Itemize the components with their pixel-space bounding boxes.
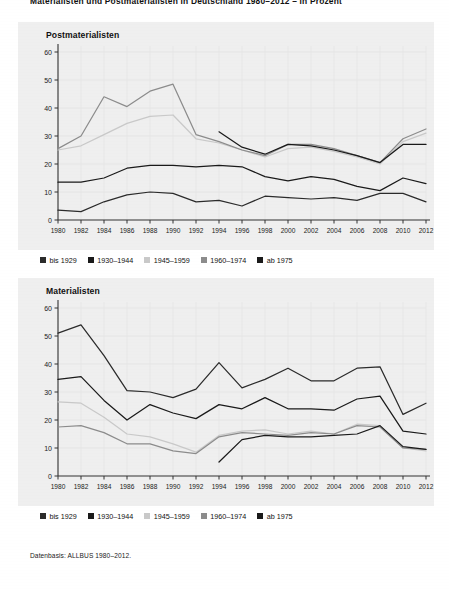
svg-text:1994: 1994 xyxy=(212,227,227,234)
svg-text:50: 50 xyxy=(44,77,52,84)
svg-text:1988: 1988 xyxy=(143,483,158,490)
svg-text:2004: 2004 xyxy=(327,483,342,490)
legend-item-2: 1945–1959 xyxy=(144,256,189,265)
legend-item-1: 1930–1944 xyxy=(88,512,133,521)
legend-item-3: 1960–1974 xyxy=(201,256,246,265)
legend-swatch-icon xyxy=(257,513,263,519)
svg-text:2006: 2006 xyxy=(350,227,365,234)
legend-item-4: ab 1975 xyxy=(257,512,292,521)
svg-text:1982: 1982 xyxy=(74,227,89,234)
chart-panel-postmaterialisten: Postmaterialisten 0102030405060198019821… xyxy=(18,22,434,250)
svg-text:2006: 2006 xyxy=(350,483,365,490)
legend-label: 1930–1944 xyxy=(97,256,133,265)
svg-text:0: 0 xyxy=(48,473,52,480)
legend-swatch-icon xyxy=(88,513,94,519)
svg-text:20: 20 xyxy=(44,417,52,424)
legend-item-2: 1945–1959 xyxy=(144,512,189,521)
svg-text:1986: 1986 xyxy=(120,227,135,234)
svg-text:2010: 2010 xyxy=(396,483,411,490)
svg-text:2008: 2008 xyxy=(373,227,388,234)
legend-swatch-icon xyxy=(40,257,46,263)
legend-swatch-icon xyxy=(257,257,263,263)
svg-text:1990: 1990 xyxy=(166,227,181,234)
legend-label: bis 1929 xyxy=(50,512,77,521)
svg-text:2012: 2012 xyxy=(419,227,434,234)
svg-text:1984: 1984 xyxy=(97,227,112,234)
svg-text:2010: 2010 xyxy=(396,227,411,234)
legend-swatch-icon xyxy=(144,257,150,263)
legend-label: ab 1975 xyxy=(267,256,293,265)
legend-item-0: bis 1929 xyxy=(40,512,77,521)
legend-swatch-icon xyxy=(201,513,207,519)
svg-text:0: 0 xyxy=(48,217,52,224)
legend-item-3: 1960–1974 xyxy=(201,512,246,521)
svg-text:1996: 1996 xyxy=(235,483,250,490)
legend-label: 1945–1959 xyxy=(154,256,190,265)
legend-item-0: bis 1929 xyxy=(40,256,77,265)
svg-text:2000: 2000 xyxy=(281,483,296,490)
svg-text:30: 30 xyxy=(44,133,52,140)
line-chart-postmaterialisten: 0102030405060198019821984198619881990199… xyxy=(18,22,434,250)
svg-text:2008: 2008 xyxy=(373,483,388,490)
svg-text:1980: 1980 xyxy=(51,483,66,490)
legend-swatch-icon xyxy=(144,513,150,519)
legend-label: bis 1929 xyxy=(50,256,77,265)
source-note: Datenbasis: ALLBUS 1980–2012. xyxy=(30,552,131,559)
svg-text:2002: 2002 xyxy=(304,227,319,234)
svg-text:60: 60 xyxy=(44,305,52,312)
legend-label: ab 1975 xyxy=(267,512,293,521)
svg-text:2004: 2004 xyxy=(327,227,342,234)
legend-swatch-icon xyxy=(88,257,94,263)
legend-materialisten: bis 19291930–19441945–19591960–1974ab 19… xyxy=(40,510,293,522)
svg-text:1986: 1986 xyxy=(120,483,135,490)
svg-text:10: 10 xyxy=(44,445,52,452)
plot-area-postmaterialisten: 0102030405060198019821984198619881990199… xyxy=(18,22,434,250)
svg-text:1980: 1980 xyxy=(51,227,66,234)
figure-title: Materialisten und Postmaterialisten in D… xyxy=(30,0,430,7)
legend-label: 1960–1974 xyxy=(210,512,246,521)
svg-text:1984: 1984 xyxy=(97,483,112,490)
svg-text:1994: 1994 xyxy=(212,483,227,490)
legend-postmaterialisten: bis 19291930–19441945–19591960–1974ab 19… xyxy=(40,254,293,266)
svg-text:1998: 1998 xyxy=(258,483,273,490)
svg-text:1992: 1992 xyxy=(189,483,204,490)
svg-text:1996: 1996 xyxy=(235,227,250,234)
svg-text:50: 50 xyxy=(44,333,52,340)
legend-swatch-icon xyxy=(40,513,46,519)
svg-text:40: 40 xyxy=(44,361,52,368)
legend-label: 1960–1974 xyxy=(210,256,246,265)
svg-text:30: 30 xyxy=(44,389,52,396)
legend-swatch-icon xyxy=(201,257,207,263)
svg-text:40: 40 xyxy=(44,105,52,112)
plot-area-materialisten: 0102030405060198019821984198619881990199… xyxy=(18,278,434,506)
svg-text:1990: 1990 xyxy=(166,483,181,490)
line-chart-materialisten: 0102030405060198019821984198619881990199… xyxy=(18,278,434,506)
figure-page: Materialisten und Postmaterialisten in D… xyxy=(0,0,449,589)
chart-panel-materialisten: Materialisten 01020304050601980198219841… xyxy=(18,278,434,506)
legend-item-4: ab 1975 xyxy=(257,256,292,265)
svg-text:2012: 2012 xyxy=(419,483,434,490)
svg-text:2002: 2002 xyxy=(304,483,319,490)
svg-text:1988: 1988 xyxy=(143,227,158,234)
legend-item-1: 1930–1944 xyxy=(88,256,133,265)
svg-text:20: 20 xyxy=(44,161,52,168)
svg-text:10: 10 xyxy=(44,189,52,196)
svg-text:1998: 1998 xyxy=(258,227,273,234)
legend-label: 1945–1959 xyxy=(154,512,190,521)
svg-text:2000: 2000 xyxy=(281,227,296,234)
svg-text:1982: 1982 xyxy=(74,483,89,490)
svg-text:60: 60 xyxy=(44,49,52,56)
legend-label: 1930–1944 xyxy=(97,512,133,521)
svg-text:1992: 1992 xyxy=(189,227,204,234)
